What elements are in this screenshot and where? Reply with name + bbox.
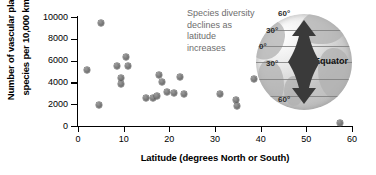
annotation-line-4: increases [187, 43, 226, 53]
y-tick-mark [71, 82, 77, 83]
scatter-plot-figure: Number of vascular plant species per 10,… [0, 0, 376, 175]
chart-annotation: Species diversity declines as latitude i… [187, 8, 255, 54]
data-point [171, 90, 177, 96]
y-tick-label: 10000 [8, 13, 68, 22]
data-point [177, 74, 183, 80]
x-tick-label: 50 [291, 134, 321, 144]
x-tick-label: 20 [154, 134, 184, 144]
data-point [154, 93, 160, 99]
x-tick-mark [169, 127, 170, 132]
data-point [234, 103, 240, 109]
y-tick-label: 8000 [8, 34, 68, 43]
annotation-line-3: latitude [187, 31, 216, 41]
y-tick-mark [71, 39, 77, 40]
y-axis-line [77, 16, 78, 127]
y-tick-label: 0 [8, 122, 68, 131]
x-tick-label: 0 [63, 134, 93, 144]
x-tick-label: 60 [337, 134, 367, 144]
data-point [181, 91, 187, 97]
y-tick-mark [71, 126, 77, 127]
data-point [143, 95, 149, 101]
data-point [159, 79, 165, 85]
data-point [156, 72, 162, 78]
annotation-line-2: declines as [187, 20, 232, 30]
latitude-label-30n: 30° [266, 26, 278, 35]
data-point [123, 54, 129, 60]
x-tick-mark [78, 127, 79, 132]
y-tick-mark [71, 17, 77, 18]
y-tick-label: 4000 [8, 78, 68, 87]
x-tick-label: 30 [200, 134, 230, 144]
x-tick-label: 40 [246, 134, 276, 144]
x-tick-label: 10 [109, 134, 139, 144]
latitude-label-30s: 30° [266, 59, 278, 68]
y-tick-label: 2000 [8, 100, 68, 109]
data-point [114, 63, 120, 69]
y-tick-label: 6000 [8, 56, 68, 65]
x-tick-mark [352, 127, 353, 132]
latitude-gradient-arrow-icon [280, 18, 328, 106]
x-tick-mark [306, 127, 307, 132]
x-tick-mark [215, 127, 216, 132]
data-point [337, 120, 343, 126]
latitude-label-60n: 60° [278, 9, 290, 18]
y-tick-mark [71, 61, 77, 62]
data-point [125, 63, 131, 69]
x-axis-title: Latitude (degrees North or South) [78, 152, 352, 163]
data-point [84, 67, 90, 73]
data-point [98, 20, 104, 26]
y-tick-mark [71, 104, 77, 105]
x-tick-mark [261, 127, 262, 132]
x-tick-mark [124, 127, 125, 132]
latitude-label-0: 0° [259, 42, 267, 51]
data-point [96, 102, 102, 108]
data-point [217, 91, 223, 97]
data-point [164, 89, 170, 95]
annotation-line-1: Species diversity [187, 8, 255, 18]
data-point [118, 81, 124, 87]
